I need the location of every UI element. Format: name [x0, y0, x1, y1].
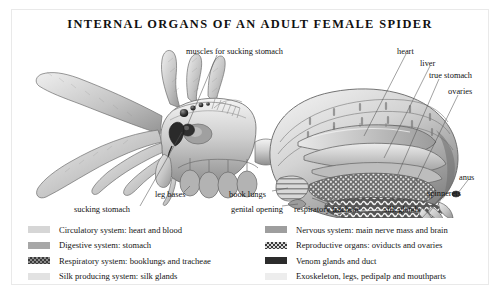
legend: Circulatory system: heart and blood Dige… [12, 222, 488, 284]
callout-liver: liver [420, 60, 435, 68]
callout-heart: heart [397, 48, 414, 56]
legend-label-reproductive-organs: Reproductive organs: oviducts and ovarie… [296, 240, 442, 250]
page-title: INTERNAL ORGANS OF AN ADULT FEMALE SPIDE… [0, 17, 500, 32]
legend-label-respiratory-system: Respiratory system: booklungs and trache… [59, 256, 211, 266]
legend-item-nervous-system: Nervous system: main nerve mass and brai… [265, 222, 500, 238]
legend-item-reproductive-organs: Reproductive organs: oviducts and ovarie… [265, 238, 500, 254]
legend-item-digestive-system: Digestive system: stomach [28, 238, 266, 254]
legend-item-circulatory-system: Circulatory system: heart and blood [28, 222, 266, 238]
legend-label-venom-glands: Venom glands and duct [296, 256, 376, 266]
legend-swatch-silk-producing-system [28, 273, 50, 280]
legend-label-nervous-system: Nervous system: main nerve mass and brai… [296, 225, 448, 235]
legend-item-exoskeleton: Exoskeleton, legs, pedipalp and mouthpar… [265, 269, 500, 285]
legend-swatch-venom-glands [265, 257, 287, 264]
legend-swatch-exoskeleton [265, 273, 287, 280]
legend-item-venom-glands: Venom glands and duct [265, 253, 500, 269]
legend-swatch-digestive-system [28, 242, 50, 249]
legend-swatch-nervous-system [265, 226, 287, 233]
legend-item-silk-producing-system: Silk producing system: silk glands [28, 269, 266, 285]
legend-swatch-respiratory-system [28, 257, 50, 264]
callout-leg-bases: leg bases [155, 191, 185, 199]
legend-swatch-reproductive-organs [265, 242, 287, 249]
legend-label-exoskeleton: Exoskeleton, legs, pedipalp and mouthpar… [296, 271, 446, 281]
legend-column-right: Nervous system: main nerve mass and brai… [265, 222, 500, 284]
callout-ovaries: ovaries [448, 88, 472, 96]
callout-spinnerets: spinnerets [427, 190, 461, 198]
legend-label-silk-producing-system: Silk producing system: silk glands [59, 271, 177, 281]
callout-muscles-for-sucking-stomach: muscles for sucking stomach [186, 48, 283, 56]
legend-swatch-circulatory-system [28, 226, 50, 233]
callout-genital-opening: genital opening [231, 206, 283, 214]
callout-anus: anus [459, 174, 474, 182]
callout-sucking-stomach: sucking stomach [74, 206, 130, 214]
callout-true-stomach: true stomach [429, 72, 472, 80]
legend-label-digestive-system: Digestive system: stomach [59, 240, 151, 250]
callout-silk-glands: silk glands [384, 206, 420, 214]
legend-column-left: Circulatory system: heart and blood Dige… [28, 222, 266, 284]
callout-respiratory-tracheae: respiratory tracheae [294, 206, 360, 214]
callout-book-lungs: book lungs [229, 191, 266, 199]
legend-item-respiratory-system: Respiratory system: booklungs and trache… [28, 253, 266, 269]
plate-page: INTERNAL ORGANS OF AN ADULT FEMALE SPIDE… [0, 0, 500, 305]
legend-label-circulatory-system: Circulatory system: heart and blood [59, 225, 182, 235]
